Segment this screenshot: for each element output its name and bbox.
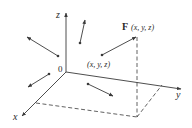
origin-label: 0 <box>58 64 63 74</box>
vector-main-f <box>101 37 136 56</box>
vector-upper-left <box>27 37 59 57</box>
z-axis-label: z <box>55 9 60 20</box>
x-axis <box>22 72 66 116</box>
y-axis <box>66 72 181 89</box>
vector-field-diagram: z y x 0 (x, y, z) F (x, y, z) <box>0 0 192 128</box>
x-axis-label: x <box>12 111 18 122</box>
vector-lower-left <box>28 73 50 87</box>
vector-f-label: F <box>122 21 128 32</box>
vector-floor-middle <box>87 83 113 96</box>
point-label: (x, y, z) <box>87 60 110 69</box>
vector-f-args-label: (x, y, z) <box>131 23 154 32</box>
vector-upper-middle <box>79 20 85 44</box>
y-axis-label: y <box>175 89 181 100</box>
